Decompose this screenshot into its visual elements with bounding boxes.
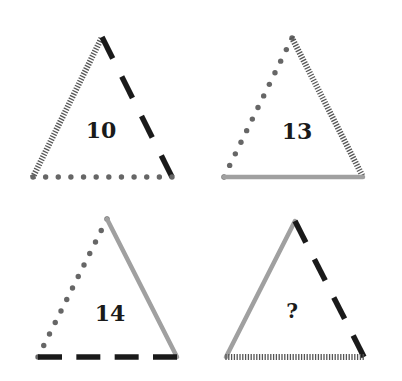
triangle-top-right	[221, 35, 364, 179]
side-left-hatched	[30, 38, 103, 179]
side-right-dashed	[295, 221, 364, 357]
triangle-value-top-left: 10	[86, 117, 117, 143]
side-right-dashed	[102, 37, 172, 177]
side-left-dotted	[35, 216, 109, 359]
triangle-bottom-right	[226, 221, 364, 360]
triangle-bottom-left	[35, 216, 177, 359]
triangle-value-bottom-left: 14	[95, 300, 126, 326]
side-left-solid	[226, 221, 295, 357]
side-bottom-dotted	[30, 174, 174, 179]
side-right-hatched	[289, 37, 364, 177]
triangle-value-top-right: 13	[282, 118, 313, 144]
side-right-solid	[107, 219, 177, 357]
unknown-value-question-mark: ?	[286, 299, 298, 323]
side-left-dotted	[221, 35, 294, 179]
triangle-top-left	[30, 37, 174, 180]
side-bottom-hatched	[226, 354, 363, 360]
puzzle-canvas: 10 13 14 ?	[0, 0, 402, 381]
